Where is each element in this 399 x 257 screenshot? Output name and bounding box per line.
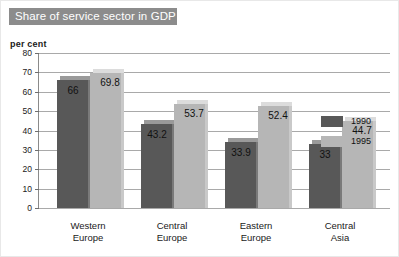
plot-wrapper: 80706050403020100 6669.843.253.733.952.4…	[1, 53, 399, 219]
bar-value-label: 52.4	[258, 111, 298, 121]
y-axis-tick	[35, 92, 39, 93]
bar-value-label: 66	[53, 86, 93, 96]
legend-swatch	[321, 116, 343, 127]
legend-swatch	[321, 136, 343, 147]
chart-title: Share of service sector in GDP	[9, 8, 177, 25]
bar-1990: 43.2	[141, 120, 172, 208]
y-axis-tick	[35, 189, 39, 190]
bar-group: 43.253.7	[141, 53, 205, 208]
y-axis-tick-label: 80	[10, 49, 32, 58]
y-axis-tick-label: 60	[10, 88, 32, 97]
bar-value-label: 43.2	[137, 130, 177, 140]
bar-value-label: 53.7	[174, 109, 214, 119]
bar-1990: 66	[57, 76, 88, 208]
y-axis-tick	[35, 169, 39, 170]
y-axis-tick	[35, 53, 39, 54]
bar-value-label: 69.8	[90, 78, 130, 88]
bar-front-face	[174, 104, 205, 208]
category-label-line: Asia	[294, 232, 386, 244]
legend-label: 1990	[351, 115, 371, 127]
legend-item: 1995	[321, 133, 389, 153]
y-axis-tick-label: 0	[10, 204, 32, 213]
category-label-line: Europe	[42, 232, 134, 244]
y-axis-tick	[35, 111, 39, 112]
bar-1990: 33.9	[225, 138, 256, 208]
x-axis-category-label: CentralAsia	[294, 220, 386, 243]
bar-front-face	[57, 80, 88, 208]
bar-side-face	[121, 73, 124, 208]
bar-1995: 52.4	[258, 102, 289, 208]
bar-group: 6669.8	[57, 53, 121, 208]
y-axis-tick	[35, 150, 39, 151]
legend-item: 1990	[321, 113, 389, 133]
x-axis-category-label: WesternEurope	[42, 220, 134, 243]
bar-side-face	[205, 104, 208, 208]
chart-legend: 19901995	[321, 113, 389, 153]
x-axis-category-labels: WesternEuropeCentralEuropeEasternEuropeC…	[1, 220, 399, 254]
y-axis-tick-label: 30	[10, 146, 32, 155]
x-axis-category-label: CentralEurope	[126, 220, 218, 243]
bar-1995: 53.7	[174, 100, 205, 208]
bar-value-label: 33.9	[221, 148, 261, 158]
y-axis-tick-labels: 80706050403020100	[6, 53, 32, 208]
bar-front-face	[258, 106, 289, 208]
bar-front-face	[90, 73, 121, 208]
legend-label: 1995	[351, 135, 371, 147]
y-axis-tick-label: 20	[10, 165, 32, 174]
category-label-line: Europe	[210, 232, 302, 244]
category-label-line: Central	[294, 220, 386, 232]
category-label-line: Western	[42, 220, 134, 232]
bar-group: 33.952.4	[225, 53, 289, 208]
y-axis-tick	[35, 208, 39, 209]
y-axis-tick-label: 70	[10, 68, 32, 77]
chart-figure: Share of service sector in GDP per cent …	[0, 0, 399, 257]
category-label-line: Central	[126, 220, 218, 232]
y-axis-tick-label: 50	[10, 107, 32, 116]
y-axis-tick	[35, 72, 39, 73]
bar-side-face	[289, 106, 292, 208]
bar-1995: 69.8	[90, 69, 121, 208]
y-axis-tick-label: 10	[10, 185, 32, 194]
y-axis-tick-label: 40	[10, 127, 32, 136]
category-label-line: Eastern	[210, 220, 302, 232]
gridline	[39, 208, 390, 209]
category-label-line: Europe	[126, 232, 218, 244]
y-axis-tick	[35, 131, 39, 132]
x-axis-category-label: EasternEurope	[210, 220, 302, 243]
